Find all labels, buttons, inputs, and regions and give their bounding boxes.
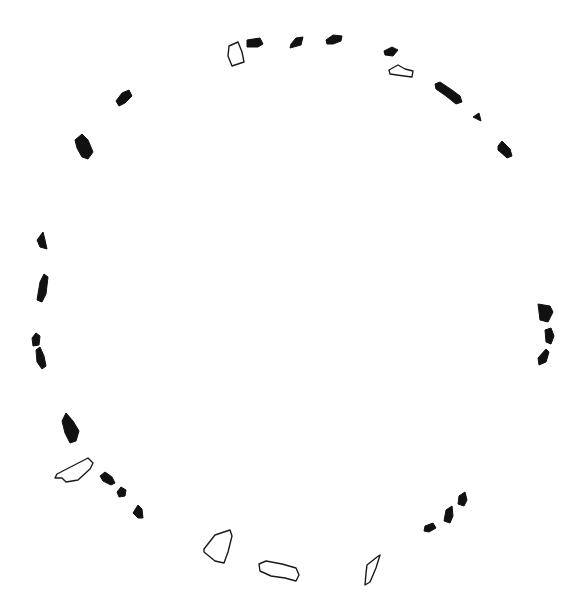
filled-stone	[538, 304, 553, 322]
filled-stone	[117, 487, 126, 497]
filled-stone	[100, 472, 115, 485]
filled-stone	[424, 523, 436, 532]
filled-stone	[37, 274, 48, 302]
filled-stone	[36, 347, 46, 369]
filled-stone	[62, 413, 79, 443]
filled-stone	[444, 506, 453, 523]
filled-stone	[37, 232, 47, 249]
filled-stone	[326, 35, 342, 44]
filled-stone	[384, 47, 398, 56]
outlined-stone	[389, 65, 413, 77]
filled-stone	[290, 37, 303, 48]
filled-stone	[545, 328, 554, 344]
filled-stone	[498, 141, 512, 158]
outlined-stone	[365, 555, 380, 585]
outlined-stone	[228, 42, 244, 66]
stone-circle-plan	[0, 0, 583, 607]
filled-stone	[473, 113, 481, 121]
outlined-stone	[259, 561, 299, 581]
filled-stone	[435, 82, 462, 104]
filled-stone	[32, 333, 40, 346]
filled-stone	[133, 505, 143, 518]
outlined-stone	[55, 458, 93, 482]
filled-stone	[247, 38, 263, 47]
filled-stone	[538, 349, 549, 365]
filled-stone	[458, 492, 467, 506]
stones-group	[32, 35, 554, 585]
outlined-stone	[204, 530, 232, 563]
filled-stone	[75, 134, 93, 159]
filled-stone	[116, 90, 132, 106]
